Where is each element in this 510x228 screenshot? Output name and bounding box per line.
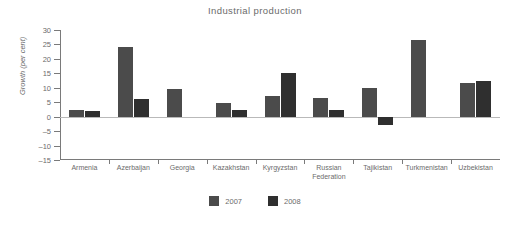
y-axis-tick-label: 30	[43, 26, 51, 35]
chart-title: Industrial production	[0, 5, 510, 16]
bar-2007	[167, 89, 182, 116]
legend-label-2007: 2007	[225, 197, 242, 206]
y-axis-tick	[54, 160, 60, 161]
x-axis-category-label: Georgia	[170, 164, 195, 173]
y-axis-tick	[54, 73, 60, 74]
x-axis-tick	[402, 160, 403, 164]
x-axis-tick	[158, 160, 159, 164]
x-axis-category-label: Kazakhstan	[213, 164, 250, 173]
x-axis-category-label: Kyrgyzstan	[263, 164, 298, 173]
legend-swatch-icon-2008	[268, 196, 278, 206]
y-axis-label: Growth (per cent)	[18, 37, 27, 95]
bar-2007	[313, 98, 328, 116]
x-axis-line	[60, 159, 500, 160]
x-axis-category-label: Turkmenistan	[406, 164, 448, 173]
x-axis-category-label: Tajikistan	[363, 164, 392, 173]
bar-2008	[378, 117, 393, 126]
bar-2007	[118, 47, 133, 116]
bar-2007	[460, 83, 475, 117]
y-axis-tick-label: –15	[38, 156, 51, 165]
y-axis-tick-label: –10	[38, 141, 51, 150]
x-axis-category-label: Azerbaijan	[117, 164, 150, 173]
x-axis-tick	[304, 160, 305, 164]
bar-2007	[216, 103, 231, 116]
bar-2008	[85, 111, 100, 117]
x-axis-tick	[109, 160, 110, 164]
y-axis-line	[60, 30, 61, 160]
x-axis-tick	[256, 160, 257, 164]
y-axis-tick-label: 0	[47, 112, 51, 121]
bar-2007	[265, 96, 280, 117]
legend-label-2008: 2008	[284, 197, 301, 206]
legend-swatch-icon-2007	[209, 196, 219, 206]
y-axis-tick-label: –5	[43, 127, 51, 136]
x-axis-tick	[451, 160, 452, 164]
y-axis-tick-label: 10	[43, 83, 51, 92]
plot-area: 302520151050–5–10–15ArmeniaAzerbaijanGeo…	[60, 30, 500, 160]
bar-2007	[362, 88, 377, 117]
chart-legend: 2007 2008	[0, 196, 510, 206]
y-axis-tick-label: 25	[43, 40, 51, 49]
y-axis-tick	[54, 30, 60, 31]
y-axis-tick	[54, 59, 60, 60]
y-axis-tick-label: 20	[43, 54, 51, 63]
y-axis-tick	[54, 88, 60, 89]
zero-baseline	[60, 117, 500, 118]
bar-2008	[232, 110, 247, 116]
bar-2007	[69, 110, 84, 117]
y-axis-tick-label: 15	[43, 69, 51, 78]
legend-item-2007[interactable]: 2007	[209, 196, 242, 206]
x-axis-tick	[207, 160, 208, 164]
bar-2008	[134, 99, 149, 116]
y-axis-tick-label: 5	[47, 98, 51, 107]
industrial-production-chart: Industrial production Growth (per cent) …	[0, 0, 510, 228]
bar-2008	[329, 110, 344, 116]
bar-2008	[476, 81, 491, 117]
y-axis-tick	[54, 44, 60, 45]
legend-item-2008[interactable]: 2008	[268, 196, 301, 206]
bar-2008	[281, 73, 296, 116]
x-axis-category-label: Russian Federation	[312, 164, 345, 181]
y-axis-tick	[54, 102, 60, 103]
y-axis-tick	[54, 146, 60, 147]
y-axis-tick	[54, 131, 60, 132]
x-axis-tick	[353, 160, 354, 164]
x-axis-category-label: Armenia	[71, 164, 97, 173]
x-axis-category-label: Uzbekistan	[458, 164, 493, 173]
bar-2007	[411, 40, 426, 117]
